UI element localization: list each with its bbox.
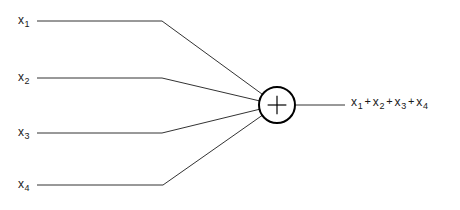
output-expression-label: x1+x2+x3+x4: [351, 96, 428, 111]
expression-term-base: x: [416, 95, 422, 109]
expression-term-3: x3: [395, 95, 407, 109]
input-label-subscript: 4: [24, 183, 30, 193]
input-label-x2: x2: [18, 71, 30, 86]
expression-operator: +: [407, 95, 417, 107]
input-wire-x2: [37, 78, 259, 101]
wire-diagonal-segment: [162, 109, 260, 133]
expression-term-2: x2: [373, 95, 385, 109]
expression-term-subscript: 2: [379, 101, 385, 111]
input-wire-group: [37, 21, 262, 185]
wire-diagonal-segment: [162, 21, 262, 94]
expression-operator: +: [385, 95, 395, 107]
input-label-subscript: 3: [24, 131, 30, 141]
expression-term-base: x: [395, 95, 401, 109]
input-wire-x3: [37, 109, 260, 133]
input-label-x1: x1: [18, 14, 30, 29]
expression-operator: +: [363, 95, 373, 107]
input-label-x4: x4: [18, 178, 30, 193]
expression-term-1: x1: [351, 95, 363, 109]
input-label-x3: x3: [18, 126, 30, 141]
wire-diagonal-segment: [163, 115, 262, 185]
expression-term-4: x4: [416, 95, 428, 109]
diagram-canvas: x1x2x3x4 x1+x2+x3+x4: [0, 0, 460, 210]
expression-term-subscript: 3: [401, 101, 407, 111]
summing-junction-node: [259, 87, 295, 123]
input-wire-x4: [37, 115, 262, 185]
input-label-subscript: 2: [24, 76, 30, 86]
expression-term-subscript: 4: [423, 101, 429, 111]
input-wire-x1: [37, 21, 262, 94]
input-label-subscript: 1: [24, 19, 30, 29]
